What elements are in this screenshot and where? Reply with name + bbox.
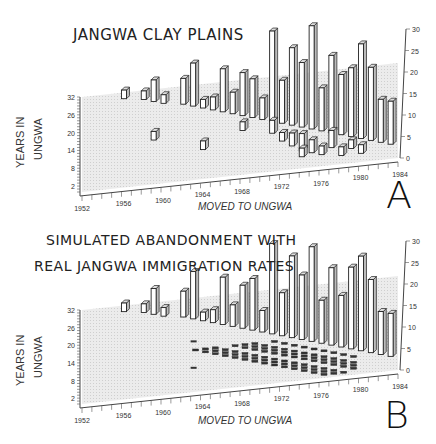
svg-text:8: 8 — [71, 165, 75, 172]
svg-text:20: 20 — [410, 281, 418, 288]
svg-text:10: 10 — [408, 112, 416, 119]
svg-text:0: 0 — [406, 367, 410, 374]
svg-text:1952: 1952 — [74, 417, 90, 424]
svg-text:15: 15 — [409, 303, 417, 310]
panel-a: 3226201482195219561960196419681972197619… — [0, 0, 436, 222]
chart-b-ylabel-1: YEARS IN — [14, 335, 26, 386]
svg-text:1956: 1956 — [116, 200, 132, 207]
panel-b: 3226201482195219561960196419681972197619… — [0, 218, 436, 444]
svg-text:20: 20 — [67, 130, 75, 137]
svg-text:1976: 1976 — [313, 392, 329, 399]
chart-a-xlabel: MOVED TO UNGWA — [198, 201, 292, 212]
svg-text:1972: 1972 — [274, 183, 290, 190]
chart-b-xlabel: MOVED TO UNGWA — [198, 415, 292, 426]
svg-text:30: 30 — [412, 238, 420, 245]
svg-text:1964: 1964 — [195, 403, 211, 410]
svg-text:25: 25 — [411, 48, 419, 55]
chart-a-ylabel-1: YEARS IN — [14, 117, 26, 168]
svg-text:26: 26 — [67, 112, 75, 119]
svg-text:2: 2 — [71, 183, 75, 190]
svg-text:0: 0 — [406, 155, 410, 162]
svg-text:8: 8 — [71, 378, 75, 385]
chart-a-ylabel-2: UNGWA — [32, 118, 44, 160]
panel-letter-a: A — [386, 176, 412, 214]
panel-letter-b: B — [384, 396, 409, 434]
svg-text:1980: 1980 — [353, 174, 369, 181]
svg-text:1980: 1980 — [353, 386, 369, 393]
svg-text:1976: 1976 — [313, 180, 329, 187]
svg-text:1952: 1952 — [74, 205, 90, 212]
svg-text:5: 5 — [407, 346, 411, 353]
svg-text:1960: 1960 — [155, 197, 171, 204]
svg-text:20: 20 — [410, 69, 418, 76]
svg-text:15: 15 — [409, 91, 417, 98]
svg-text:5: 5 — [407, 134, 411, 141]
svg-text:20: 20 — [67, 342, 75, 349]
svg-text:1968: 1968 — [234, 188, 250, 195]
svg-text:26: 26 — [67, 325, 75, 332]
svg-text:10: 10 — [408, 324, 416, 331]
svg-text:1964: 1964 — [195, 191, 211, 198]
svg-text:25: 25 — [411, 260, 419, 267]
chart-b-ylabel-2: UNGWA — [32, 336, 44, 378]
chart-b-plot: 3226201482195219561960196419681972197619… — [0, 218, 436, 444]
svg-text:14: 14 — [67, 360, 75, 367]
chart-b-title-line1: SIMULATED ABANDONMENT WITH — [46, 232, 297, 248]
svg-text:32: 32 — [67, 94, 75, 101]
svg-text:1968: 1968 — [234, 400, 250, 407]
svg-text:1960: 1960 — [155, 409, 171, 416]
svg-text:32: 32 — [67, 307, 75, 314]
svg-text:2: 2 — [71, 395, 75, 402]
chart-a-title: JANGWA CLAY PLAINS — [73, 26, 244, 44]
chart-b-title-line2: REAL JANGWA IMMIGRATION RATES — [34, 258, 294, 274]
svg-text:1984: 1984 — [392, 383, 408, 390]
svg-text:1972: 1972 — [274, 395, 290, 402]
svg-text:14: 14 — [67, 147, 75, 154]
svg-text:30: 30 — [412, 26, 420, 33]
svg-text:1956: 1956 — [116, 412, 132, 419]
